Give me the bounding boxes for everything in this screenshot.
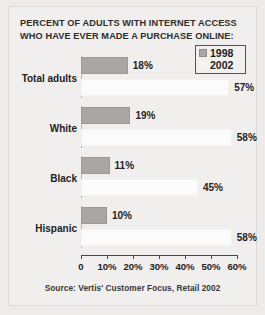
x-axis-tick-label: 10% <box>97 261 116 272</box>
chart-source-note: Source: Vertis' Customer Focus, Retail 2… <box>0 283 265 293</box>
chart-group: 19%58%White <box>81 106 237 150</box>
bar-value-2002: 58% <box>237 129 257 146</box>
x-axis-tick <box>81 255 82 259</box>
x-axis-tick <box>159 255 160 259</box>
bar-2002 <box>81 79 229 96</box>
bar-value-2002: 58% <box>237 229 257 246</box>
chart-group: 10%58%Hispanic <box>81 206 237 250</box>
chart-group: 18%57%Total adults <box>81 56 237 100</box>
bar-1998 <box>81 57 128 74</box>
chart-group: 11%45%Black <box>81 156 237 200</box>
category-label: Hispanic <box>35 223 77 235</box>
bar-value-2002: 57% <box>234 79 254 96</box>
category-label: Black <box>50 173 77 185</box>
chart-title: PERCENT OF ADULTS WITH INTERNET ACCESS W… <box>20 17 248 42</box>
bar-2002 <box>81 179 198 196</box>
x-axis-tick <box>107 255 108 259</box>
x-axis-tick-label: 50% <box>201 261 220 272</box>
bar-value-1998: 10% <box>112 207 132 224</box>
chart-title-line-2: WHO HAVE EVER MADE A PURCHASE ONLINE: <box>20 30 248 43</box>
x-axis-tick-label: 40% <box>175 261 194 272</box>
category-label: White <box>50 123 77 135</box>
x-axis-tick <box>211 255 212 259</box>
bar-1998 <box>81 207 107 224</box>
bar-value-1998: 18% <box>133 57 153 74</box>
x-axis-tick <box>237 255 238 259</box>
bar-value-1998: 19% <box>135 107 155 124</box>
chart-plot-area: 18%57%Total adults19%58%White11%45%Black… <box>81 56 237 255</box>
chart-title-line-1: PERCENT OF ADULTS WITH INTERNET ACCESS <box>20 17 248 30</box>
chart-figure: PERCENT OF ADULTS WITH INTERNET ACCESS W… <box>0 0 265 315</box>
x-axis-tick <box>185 255 186 259</box>
bar-value-2002: 45% <box>203 179 223 196</box>
bar-value-1998: 11% <box>115 157 134 174</box>
x-axis-tick <box>133 255 134 259</box>
bar-1998 <box>81 107 130 124</box>
x-axis-tick-label: 30% <box>149 261 168 272</box>
bar-2002 <box>81 229 232 246</box>
x-axis-tick-label: 20% <box>123 261 142 272</box>
chart-x-axis: 010%20%30%40%50%60% <box>81 255 237 256</box>
x-axis-tick-label: 60% <box>227 261 246 272</box>
bar-1998 <box>81 157 110 174</box>
x-axis-tick-label: 0 <box>78 261 83 272</box>
category-label: Total adults <box>22 73 77 85</box>
bar-2002 <box>81 129 232 146</box>
